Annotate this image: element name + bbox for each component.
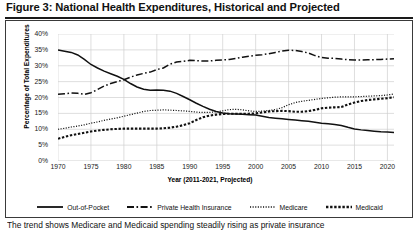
series-line [58, 50, 394, 133]
legend-label: Out-of-Pocket [67, 204, 109, 211]
y-tick-label: 5% [18, 141, 48, 148]
plot-area [58, 34, 394, 161]
y-tick-label: 40% [18, 30, 48, 37]
title-divider [5, 17, 413, 19]
y-tick-label: 20% [18, 94, 48, 101]
chart-panel: Percentage of Total Expenditures 0%5%10%… [5, 20, 413, 218]
y-tick-label: 30% [18, 62, 48, 69]
legend-item[interactable]: Out-of-Pocket [37, 203, 109, 211]
y-tick-label: 25% [18, 78, 48, 85]
legend-swatch-icon [326, 203, 352, 211]
legend-label: Private Health Insurance [157, 204, 231, 211]
legend-swatch-icon [127, 203, 153, 211]
series-line [58, 94, 394, 129]
legend-item[interactable]: Private Health Insurance [127, 203, 231, 211]
x-tick-label: 2020 [367, 163, 407, 170]
legend-label: Medicare [280, 204, 308, 211]
figure-container: Figure 3: National Health Expenditures, … [0, 0, 418, 234]
figure-caption: The trend shows Medicare and Medicaid sp… [7, 220, 411, 233]
series-line [58, 97, 394, 139]
figure-title: Figure 3: National Health Expenditures, … [6, 1, 412, 13]
y-tick-label: 35% [18, 46, 48, 53]
data-series [58, 50, 394, 139]
legend-swatch-icon [250, 203, 276, 211]
x-axis-title: Year (2011-2021, Projected) [6, 176, 414, 183]
legend-item[interactable]: Medicare [250, 203, 308, 211]
gridlines [58, 34, 394, 161]
y-tick-label: 10% [18, 125, 48, 132]
series-canvas [58, 34, 394, 161]
legend-label: Medicaid [356, 204, 383, 211]
legend-item[interactable]: Medicaid [326, 203, 383, 211]
chart-legend: Out-of-PocketPrivate Health InsuranceMed… [6, 197, 414, 217]
legend-swatch-icon [37, 203, 63, 211]
y-tick-label: 15% [18, 109, 48, 116]
